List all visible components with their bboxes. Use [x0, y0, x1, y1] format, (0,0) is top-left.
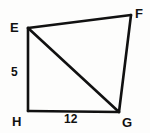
vertex-label-h: H: [12, 115, 21, 128]
edge-fg: [119, 15, 131, 112]
geometry-figure: E F G H 5 12: [0, 0, 150, 133]
edge-ef: [28, 15, 131, 28]
side-length-label-hg: 12: [64, 113, 77, 125]
edge-eg-diagonal: [28, 28, 119, 112]
side-length-label-eh: 5: [11, 66, 18, 78]
vertex-label-g: G: [122, 116, 132, 129]
vertex-label-f: F: [135, 7, 143, 20]
vertex-label-e: E: [10, 21, 19, 34]
